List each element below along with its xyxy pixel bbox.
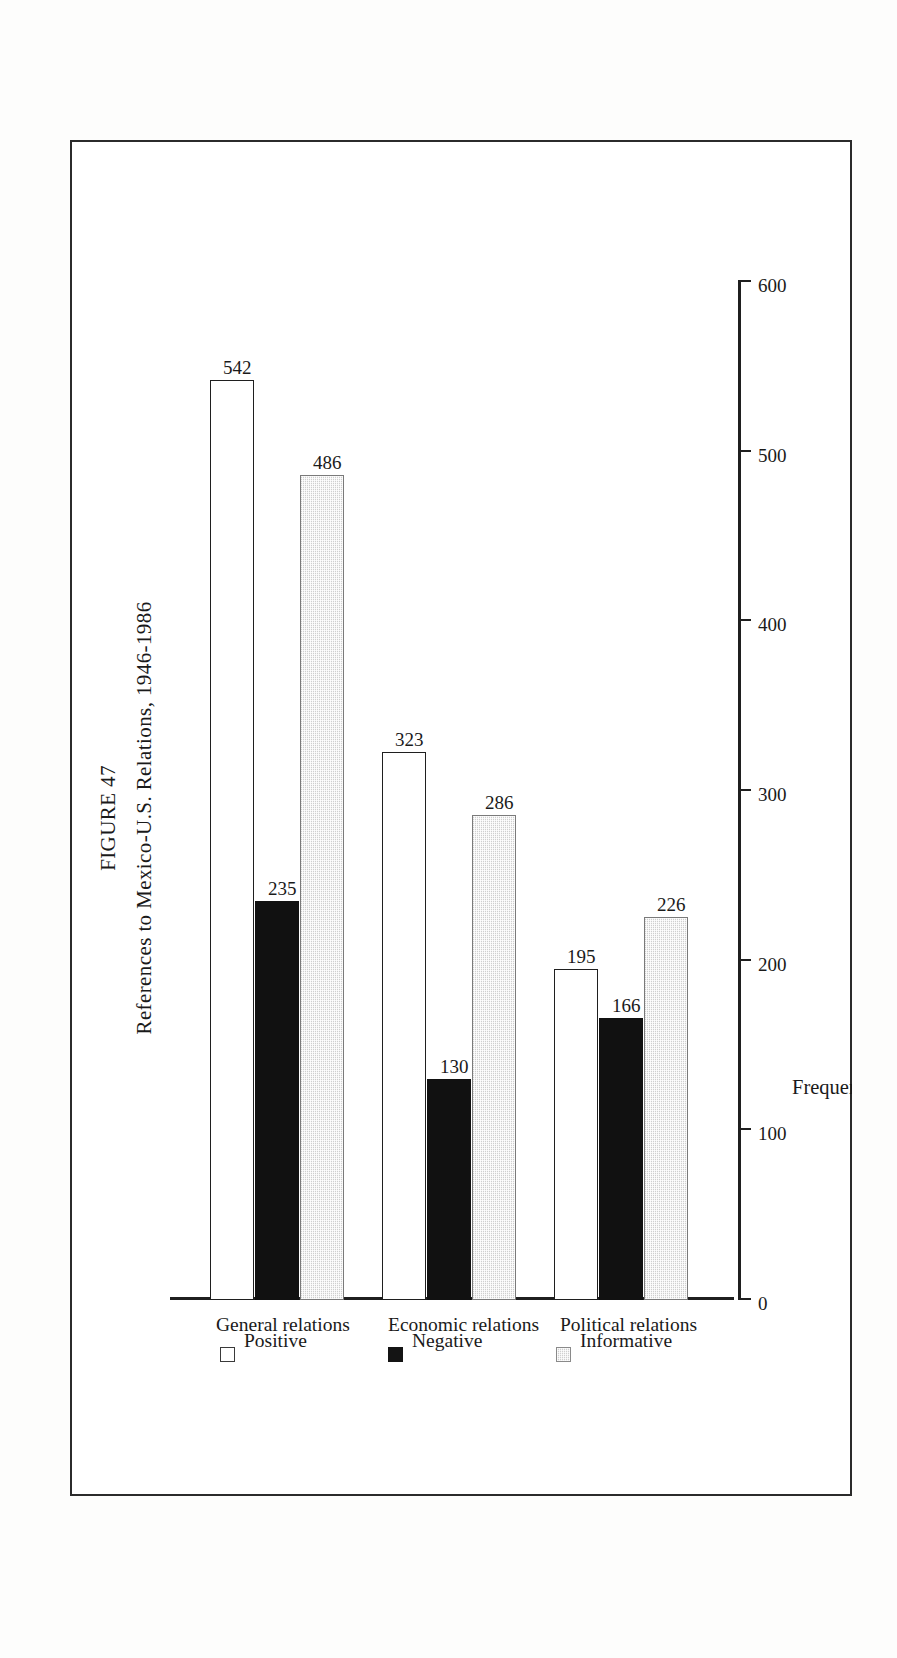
plot-area: 542235486323130286195166226 General rela… <box>192 282 712 1300</box>
black-square-icon <box>388 1347 403 1362</box>
rotated-figure-container: FIGURE 47 References to Mexico-U.S. Rela… <box>70 140 852 1496</box>
bar-value-label: 286 <box>485 792 514 814</box>
bar-value-label: 542 <box>223 357 252 379</box>
frequency-tick <box>738 280 751 282</box>
legend-entry-informative: Informative <box>556 1316 676 1376</box>
bar-value-label: 195 <box>567 946 596 968</box>
legend-label: Negative <box>412 1330 482 1352</box>
frequency-tick <box>738 959 751 961</box>
legend-entry-negative: Negative <box>388 1316 508 1376</box>
chart-legend: PositiveNegativeInformative <box>220 1316 690 1376</box>
bar-positive-general <box>210 380 254 1300</box>
bar-positive-political <box>554 969 598 1300</box>
bar-value-label: 486 <box>313 452 342 474</box>
frequency-tick-label: 400 <box>758 614 787 636</box>
bar-informative-political <box>644 917 688 1300</box>
frequency-tick-label: 100 <box>758 1123 787 1145</box>
legend-entry-positive: Positive <box>220 1316 340 1376</box>
bar-informative-general <box>300 475 344 1300</box>
bar-negative-political <box>599 1018 643 1300</box>
frequency-axis-title: Frequency <box>792 1076 852 1099</box>
bar-negative-economic <box>427 1079 471 1300</box>
bar-value-label: 323 <box>395 729 424 751</box>
frequency-tick-label: 300 <box>758 784 787 806</box>
figure-caption: References to Mexico-U.S. Relations, 194… <box>132 140 157 1496</box>
legend-label: Positive <box>244 1330 307 1352</box>
frequency-axis-line <box>738 282 741 1300</box>
bar-value-label: 226 <box>657 894 686 916</box>
frequency-tick <box>738 1128 751 1130</box>
white-square-icon <box>220 1347 235 1362</box>
bar-value-label: 130 <box>440 1056 469 1078</box>
bar-value-label: 235 <box>268 878 297 900</box>
frequency-axis: 0100200300400500600 <box>738 282 742 1300</box>
figure-canvas: FIGURE 47 References to Mexico-U.S. Rela… <box>70 140 852 1496</box>
bar-informative-economic <box>472 815 516 1300</box>
frequency-tick <box>738 619 751 621</box>
frequency-tick-label: 0 <box>758 1293 768 1315</box>
frequency-tick <box>738 789 751 791</box>
gray-hatched-square-icon <box>556 1347 571 1362</box>
frequency-tick-label: 500 <box>758 445 787 467</box>
frequency-tick-label: 200 <box>758 954 787 976</box>
frequency-tick-label: 600 <box>758 275 787 297</box>
bar-positive-economic <box>382 752 426 1300</box>
figure-number-label: FIGURE 47 <box>96 140 121 1496</box>
frequency-tick <box>738 450 751 452</box>
bar-negative-general <box>255 901 299 1300</box>
bar-value-label: 166 <box>612 995 641 1017</box>
legend-label: Informative <box>580 1330 672 1352</box>
frequency-tick <box>738 1298 751 1300</box>
